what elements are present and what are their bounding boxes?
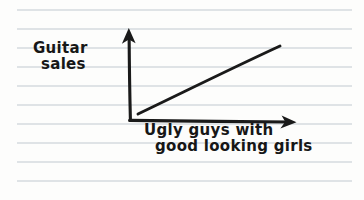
y-axis (122, 28, 136, 120)
notebook-page: Guitar sales Ugly guys with good looking… (0, 0, 364, 200)
hand-drawn-chart-sketch (0, 0, 364, 200)
y-axis-label-line-2: sales (33, 57, 88, 73)
trend-line (138, 46, 280, 114)
y-axis-label: Guitar sales (33, 41, 88, 73)
x-axis-label-line-2: good looking girls (144, 139, 313, 155)
x-axis-label: Ugly guys with good looking girls (144, 123, 313, 155)
